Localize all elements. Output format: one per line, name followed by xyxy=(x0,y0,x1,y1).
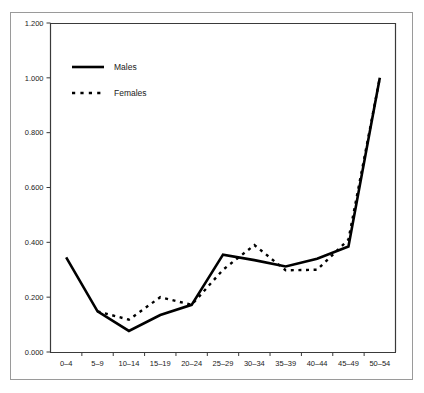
legend-label-males: Males xyxy=(114,62,137,72)
axes-group xyxy=(50,23,396,353)
x-tick-label: 10–14 xyxy=(118,359,139,368)
x-tick-label: 40–44 xyxy=(307,359,328,368)
x-tick-label: 35–39 xyxy=(275,359,296,368)
y-tick-label: 0.000 xyxy=(25,348,44,357)
x-tick-label: 5–9 xyxy=(91,359,104,368)
figure-root: 0.0000.2000.4000.6000.8001.0001.200 0–45… xyxy=(0,0,424,393)
series-group xyxy=(66,78,380,331)
x-tick-label: 50–54 xyxy=(369,359,390,368)
series-line-males xyxy=(66,78,380,331)
y-tick-label: 0.600 xyxy=(25,183,44,192)
y-tick-label: 0.200 xyxy=(25,293,44,302)
x-tick-label: 15–19 xyxy=(150,359,171,368)
y-tick-label: 0.400 xyxy=(25,238,44,247)
x-tick-label: 30–34 xyxy=(244,359,265,368)
x-tick-label: 25–29 xyxy=(213,359,234,368)
x-tick-label: 0–4 xyxy=(60,359,73,368)
x-tick-group: 0–45–910–1415–1920–2425–2930–3435–3940–4… xyxy=(60,352,390,368)
x-tick-label: 45–49 xyxy=(338,359,359,368)
legend: Males Females xyxy=(72,62,147,98)
x-tick-label: 20–24 xyxy=(181,359,202,368)
y-tick-label: 1.000 xyxy=(25,74,44,83)
y-tick-group: 0.0000.2000.4000.6000.8001.0001.200 xyxy=(25,19,51,357)
line-chart: 0.0000.2000.4000.6000.8001.0001.200 0–45… xyxy=(0,0,424,393)
legend-label-females: Females xyxy=(114,88,147,98)
y-tick-label: 0.800 xyxy=(25,128,44,137)
series-line-females xyxy=(98,78,380,320)
y-tick-label: 1.200 xyxy=(25,19,44,28)
